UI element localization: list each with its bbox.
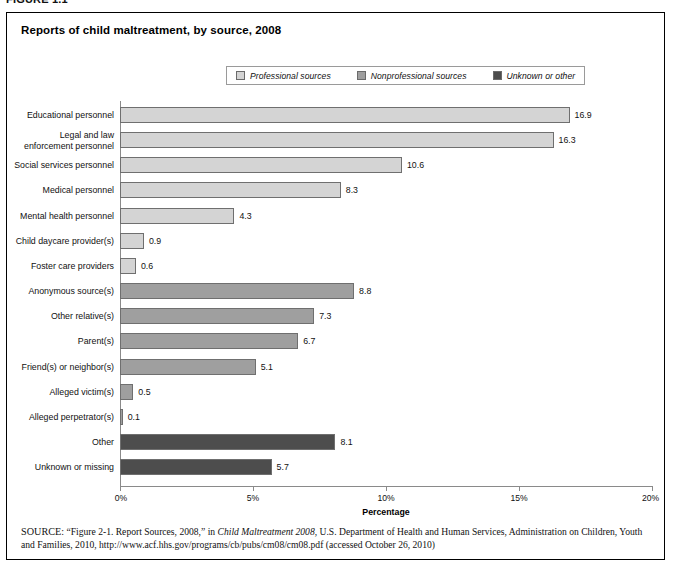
bar-row: Educational personnel16.9 [120,107,652,123]
bar [120,157,402,173]
bar-row: Child daycare provider(s)0.9 [120,233,652,249]
source-text-part1: “Figure 2-1. Report Sources, 2008,” in [64,526,217,537]
bar-value-label: 10.6 [407,160,424,170]
bar [120,208,234,224]
category-label: Medical personnel [43,185,114,196]
x-axis-tick-label: 20% [642,493,659,503]
bar-row: Unknown or missing5.7 [120,459,652,475]
bar-value-label: 0.6 [141,261,153,271]
bar-value-label: 7.3 [319,311,331,321]
bar-value-label: 6.7 [303,336,315,346]
bar-row: Other relative(s)7.3 [120,308,652,324]
bar [120,459,272,475]
bar [120,182,341,198]
x-axis-tick-label: 0% [115,493,127,503]
bar [120,283,354,299]
bar-value-label: 5.7 [277,462,289,472]
source-prefix: SOURCE: [21,526,64,537]
bar-value-label: 5.1 [261,362,273,372]
bar-value-label: 8.8 [359,286,371,296]
bar [120,409,123,425]
category-label: Alleged victim(s) [49,386,114,397]
figure-number: FIGURE 1.1 [6,0,68,5]
category-label: Child daycare provider(s) [16,236,114,247]
bar-value-label: 8.1 [340,437,352,447]
bar [120,308,314,324]
category-label: Educational personnel [27,110,114,121]
bar-row: Friend(s) or neighbor(s)5.1 [120,359,652,375]
chart-plot-area: Educational personnel16.9Legal and law e… [7,13,666,561]
bar-row: Anonymous source(s)8.8 [120,283,652,299]
figure-box: Reports of child maltreatment, by source… [6,12,665,560]
bar [120,333,298,349]
x-axis-tick [652,486,653,491]
bar-row: Legal and law enforcement personnel16.3 [120,132,652,148]
category-label: Unknown or missing [35,462,114,473]
bar [120,258,136,274]
bar-row: Alleged perpetrator(s)0.1 [120,409,652,425]
x-axis-tick-label: 10% [377,493,394,503]
bar-value-label: 16.3 [559,135,576,145]
bar-row: Foster care providers0.6 [120,258,652,274]
category-label: Parent(s) [78,336,114,347]
bar [120,434,335,450]
x-axis-tick [519,486,520,491]
source-publication-title: Child Maltreatment 2008 [218,526,315,537]
category-label: Other [92,437,114,448]
category-label: Legal and law enforcement personnel [24,130,114,151]
category-label: Anonymous source(s) [28,286,114,297]
x-axis-tick-label: 15% [510,493,527,503]
x-axis-tick [253,486,254,491]
category-label: Friend(s) or neighbor(s) [22,361,114,372]
bar-value-label: 16.9 [575,110,592,120]
x-axis-title: Percentage [120,507,652,517]
source-note: SOURCE: “Figure 2-1. Report Sources, 200… [21,526,655,551]
bar-row: Mental health personnel4.3 [120,208,652,224]
category-label: Other relative(s) [51,311,114,322]
bar-row: Social services personnel10.6 [120,157,652,173]
bar-row: Alleged victim(s)0.5 [120,384,652,400]
bar-value-label: 0.5 [138,387,150,397]
bar-row: Medical personnel8.3 [120,182,652,198]
bar-value-label: 0.1 [128,412,140,422]
bar [120,359,256,375]
bars-layer: Educational personnel16.9Legal and law e… [120,101,652,486]
x-axis-tick [120,486,121,491]
bar-value-label: 8.3 [346,185,358,195]
category-label: Foster care providers [31,261,114,272]
bar-row: Other8.1 [120,434,652,450]
bar [120,107,570,123]
x-axis-tick-label: 5% [247,493,259,503]
bar [120,233,144,249]
category-label: Alleged perpetrator(s) [29,412,114,423]
bar [120,132,554,148]
bar-value-label: 4.3 [239,211,251,221]
bar [120,384,133,400]
bar-value-label: 0.9 [149,236,161,246]
x-axis-tick [386,486,387,491]
category-label: Mental health personnel [20,210,114,221]
category-label: Social services personnel [14,160,114,171]
bar-row: Parent(s)6.7 [120,333,652,349]
